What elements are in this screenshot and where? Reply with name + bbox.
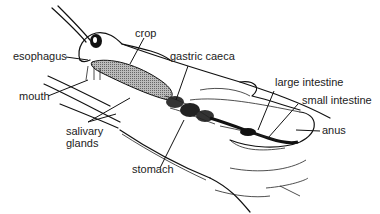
- antenna: [52, 6, 90, 42]
- label-stomach: stomach: [132, 163, 174, 175]
- label-anus: anus: [322, 124, 346, 136]
- label-small-intestine: small intestine: [302, 94, 372, 106]
- label-mouth: mouth: [19, 90, 50, 102]
- label-gastric-caeca: gastric caeca: [170, 50, 236, 62]
- label-crop: crop: [135, 27, 156, 39]
- label-salivary-glands-line2: glands: [66, 137, 99, 149]
- label-salivary-glands-line1: salivary: [66, 125, 104, 137]
- grasshopper-illustration: esophagus crop gastric caeca mouth large…: [0, 0, 380, 214]
- diagram-canvas: esophagus crop gastric caeca mouth large…: [0, 0, 380, 214]
- label-large-intestine: large intestine: [275, 76, 344, 88]
- gastric-caeca-organ: [165, 96, 215, 124]
- crop-organ: [91, 60, 172, 100]
- label-esophagus: esophagus: [13, 50, 67, 62]
- intestine-organ: [210, 118, 298, 143]
